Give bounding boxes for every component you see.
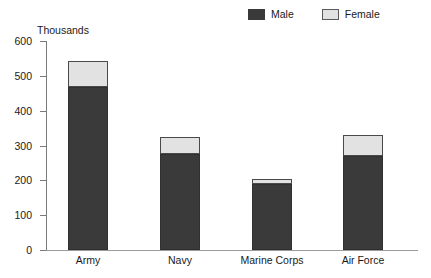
bar-segment-female <box>68 61 108 87</box>
y-axis-tick-label: 500 <box>4 71 32 82</box>
y-axis-tick-label: 400 <box>4 106 32 117</box>
bar-segment-male <box>68 87 108 250</box>
bar-segment-male <box>343 156 383 250</box>
y-axis-tick-label: 0 <box>4 245 32 256</box>
y-axis-tick <box>40 76 46 77</box>
y-axis-tick <box>40 41 46 42</box>
y-axis-tick-label: 100 <box>4 210 32 221</box>
stacked-bar-chart: Male Female Thousands 600500400300200100… <box>0 0 431 278</box>
bar-segment-male <box>160 154 200 250</box>
y-axis-tick <box>40 215 46 216</box>
y-axis-line <box>46 41 47 251</box>
y-axis-tick <box>40 250 46 251</box>
y-axis-tick-label: 600 <box>4 36 32 47</box>
y-axis-tick <box>40 146 46 147</box>
bar-segment-female <box>343 135 383 157</box>
bar-segment-female <box>160 137 200 154</box>
plot-area: 6005004003002001000 ArmyNavyMarine Corps… <box>0 0 431 278</box>
y-axis-tick-label: 200 <box>4 175 32 186</box>
y-axis-tick-label: 300 <box>4 141 32 152</box>
bar-segment-female <box>252 179 292 184</box>
x-axis-label-air-force: Air Force <box>308 254 418 266</box>
x-axis-line <box>46 250 418 251</box>
y-axis-tick <box>40 180 46 181</box>
y-axis-tick <box>40 111 46 112</box>
bar-segment-male <box>252 184 292 250</box>
